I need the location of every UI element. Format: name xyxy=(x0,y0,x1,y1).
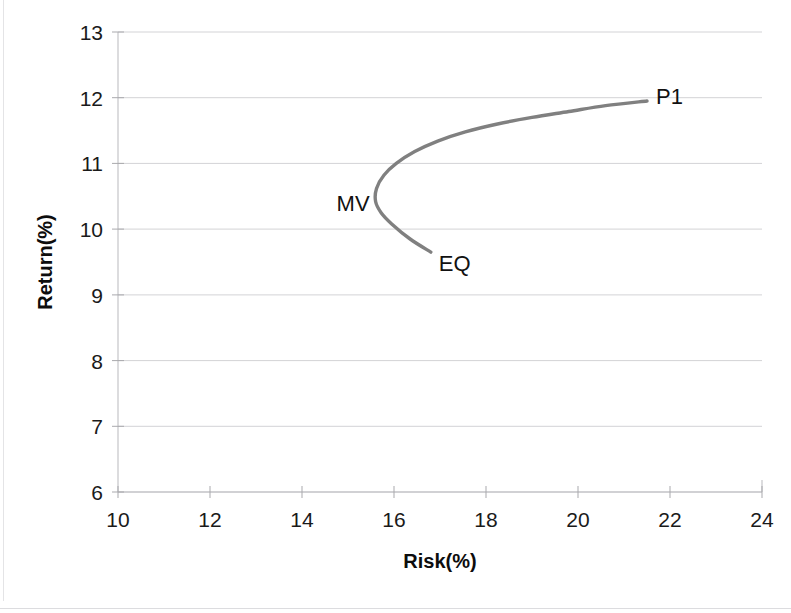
chart-svg-canvas: 13 12 11 10 9 8 7 6 10 12 14 16 18 20 22… xyxy=(0,0,791,613)
annotation-label-p1: P1 xyxy=(656,84,683,109)
y-tick-label-10: 10 xyxy=(80,218,103,241)
x-tick-label-22: 22 xyxy=(658,508,681,531)
x-tick-label-14: 14 xyxy=(290,508,314,531)
y-tick-label-8: 8 xyxy=(91,350,103,373)
y-axis-title: Return(%) xyxy=(34,214,56,310)
y-tick-label-6: 6 xyxy=(91,481,103,504)
x-axis-title: Risk(%) xyxy=(403,550,476,572)
y-tick-label-13: 13 xyxy=(80,21,103,44)
annotation-label-mv: MV xyxy=(337,191,370,216)
y-tick-label-12: 12 xyxy=(80,87,103,110)
x-tick-label-20: 20 xyxy=(566,508,589,531)
y-tick-label-11: 11 xyxy=(81,152,103,175)
point-annotations: MV EQ P1 xyxy=(337,84,683,276)
x-tick-label-12: 12 xyxy=(198,508,221,531)
y-axis-tick-labels: 13 12 11 10 9 8 7 6 xyxy=(80,21,103,504)
x-tick-label-10: 10 xyxy=(106,508,129,531)
x-tick-label-18: 18 xyxy=(474,508,497,531)
x-axis-tick-labels: 10 12 14 16 18 20 22 24 xyxy=(106,508,774,531)
x-tick-label-24: 24 xyxy=(750,508,774,531)
y-tick-label-7: 7 xyxy=(91,415,103,438)
y-tick-label-9: 9 xyxy=(91,284,103,307)
x-tick-label-16: 16 xyxy=(382,508,405,531)
efficient-frontier-chart: 13 12 11 10 9 8 7 6 10 12 14 16 18 20 22… xyxy=(0,0,791,613)
annotation-label-eq: EQ xyxy=(439,251,471,276)
